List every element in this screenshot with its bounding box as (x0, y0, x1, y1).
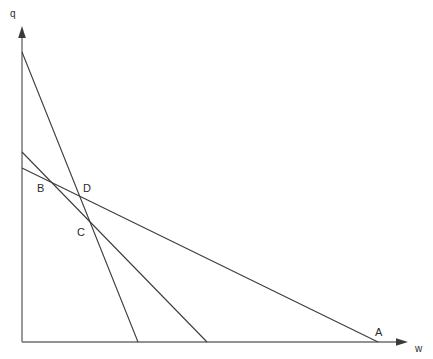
point-label-a: A (375, 327, 382, 338)
y-axis-arrow-icon (18, 26, 26, 38)
medium-line (22, 152, 207, 342)
x-axis-label: w (415, 344, 422, 354)
point-label-d: D (83, 183, 91, 194)
economics-line-diagram: q w A B C D (0, 0, 433, 359)
x-axis-arrow-icon (396, 338, 408, 346)
plot-canvas (0, 0, 433, 359)
y-axis-label: q (10, 9, 16, 19)
point-label-c: C (77, 227, 85, 238)
point-label-b: B (37, 183, 44, 194)
shallow-line (22, 168, 378, 342)
steep-line (22, 52, 138, 342)
